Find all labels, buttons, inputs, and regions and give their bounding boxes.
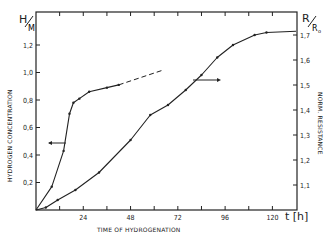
y-left-tick-label: 0,4 [23, 152, 33, 160]
y-right-tick-label: 1,5 [300, 82, 310, 90]
resistance-point [232, 44, 234, 46]
x-tick-label: 24 [79, 214, 87, 222]
concentration-point [78, 97, 80, 99]
svg-text:R: R [302, 12, 310, 25]
y-right-tick-label: 1,7 [300, 32, 310, 40]
y-right-axis: 1,11,21,31,41,51,61,7 [293, 32, 310, 190]
right-arrow-head-icon [217, 78, 221, 82]
y-left-tick-label: 0,2 [23, 179, 33, 187]
x-tick-label: 120 [266, 214, 278, 222]
y-right-tick-label: 1,4 [300, 107, 310, 115]
y-left-tick-label: 0,6 [23, 124, 33, 132]
y-left-tick-label: 0,8 [23, 97, 33, 105]
svg-text:M: M [28, 24, 35, 33]
y-right-tick-label: 1,1 [300, 182, 310, 190]
concentration-point [106, 86, 108, 88]
y-right-axis-title: NORM. RESISTANCE [317, 92, 324, 155]
axis-labels: TIME OF HYDROGENATION t [h] HYDROGEN CON… [6, 89, 324, 233]
resistance-point [149, 114, 151, 116]
y-left-axis-title: HYDROGEN CONCENTRATION [6, 89, 13, 182]
x-tick-label: 72 [174, 214, 182, 222]
resistance-point [98, 171, 100, 173]
concentration-point [72, 102, 74, 104]
x-axis-title: TIME OF HYDROGENATION [96, 226, 181, 233]
resistance-point [45, 206, 47, 208]
curves [36, 31, 296, 210]
concentration-point [118, 84, 120, 86]
resistance-curve [36, 31, 296, 210]
resistance-point [56, 199, 58, 201]
svg-text:H: H [19, 13, 27, 26]
y-left-tick-label: 1,0 [23, 69, 33, 77]
x-axis-ticks: 24487296120 [60, 12, 279, 222]
resistance-point [253, 34, 255, 36]
concentration-point [62, 150, 64, 152]
y-right-tick-label: 1,6 [300, 57, 310, 65]
resistance-point [216, 56, 218, 58]
y-left-symbol: H M [19, 13, 35, 33]
concentration-point [51, 185, 53, 187]
plot-frame [36, 12, 297, 210]
svg-text:o: o [318, 28, 321, 34]
y-left-tick-label: 1,2 [23, 42, 33, 50]
concentration-extrapolation-dashed [119, 70, 164, 85]
x-tick-label: 48 [127, 214, 135, 222]
left-arrow-head-icon [48, 141, 52, 145]
resistance-point [129, 139, 131, 141]
concentration-point [88, 91, 90, 93]
concentration-point [68, 113, 70, 115]
resistance-point [200, 74, 202, 76]
y-right-tick-label: 1,2 [300, 157, 310, 165]
y-right-tick-label: 1,3 [300, 132, 310, 140]
concentration-curve [36, 85, 119, 210]
resistance-point [74, 189, 76, 191]
resistance-point [185, 89, 187, 91]
resistance-point [167, 104, 169, 106]
plot-border [36, 12, 297, 210]
x-axis-unit: t [h] [285, 210, 308, 223]
chart: 24487296120 0,20,40,60,81,01,2 1,11,21,3… [0, 0, 329, 242]
y-left-axis: 0,20,40,60,81,01,2 [23, 42, 40, 188]
x-tick-label: 96 [221, 214, 229, 222]
resistance-point [265, 31, 267, 33]
